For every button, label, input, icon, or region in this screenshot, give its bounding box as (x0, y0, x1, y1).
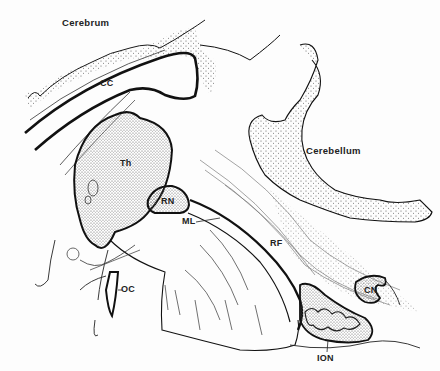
brain-section-diagram: Cerebrum Cerebellum CC Th RN ML RF OC CN… (0, 0, 440, 371)
label-cerebellum: Cerebellum (306, 145, 361, 156)
diagram-drawing (0, 0, 440, 371)
label-ion: ION (317, 353, 334, 363)
label-ml: ML (182, 216, 196, 226)
cerebrum-cortex (25, 20, 216, 110)
label-oc: OC (121, 284, 135, 294)
label-rf: RF (270, 238, 283, 248)
cerebellum (200, 35, 432, 222)
label-cerebrum: Cerebrum (62, 17, 109, 28)
label-th: Th (120, 158, 132, 168)
label-rn: RN (161, 196, 175, 206)
label-cn: CN (364, 285, 378, 295)
label-cc: CC (100, 78, 114, 88)
thalamus (74, 112, 172, 248)
optic-chiasm (35, 240, 118, 336)
